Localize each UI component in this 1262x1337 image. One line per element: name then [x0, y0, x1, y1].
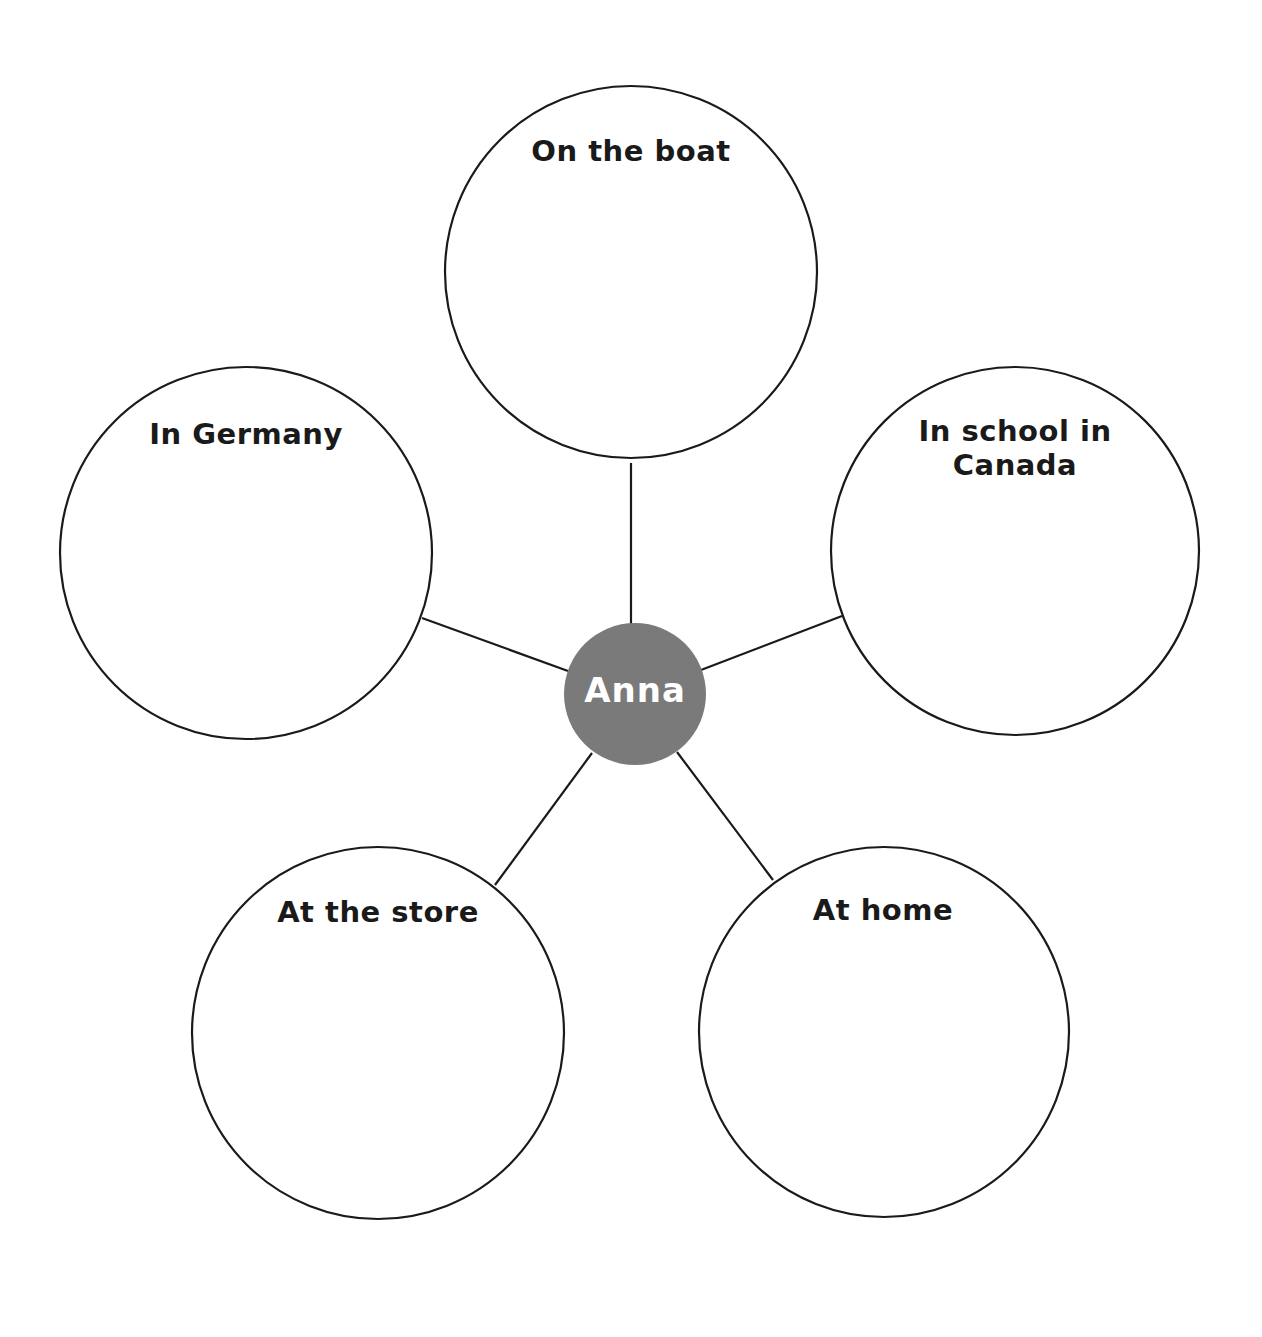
character-web-diagram: On the boat In Germany In school in Cana… — [0, 0, 1262, 1337]
label-in-school-in-canada-line2: Canada — [865, 448, 1165, 482]
label-in-school-in-canada: In school in Canada — [865, 414, 1165, 482]
label-in-germany: In Germany — [96, 417, 396, 451]
label-at-home: At home — [733, 893, 1033, 927]
label-in-school-in-canada-line1: In school in — [865, 414, 1165, 448]
connector-bottom-right — [677, 752, 773, 880]
connector-left — [422, 618, 568, 671]
center-hub-label: Anna — [555, 670, 715, 710]
connector-bottom-left — [495, 753, 592, 885]
label-at-the-store: At the store — [228, 895, 528, 929]
label-on-the-boat: On the boat — [481, 134, 781, 168]
connector-right — [701, 616, 842, 670]
diagram-graphics — [0, 0, 1262, 1337]
